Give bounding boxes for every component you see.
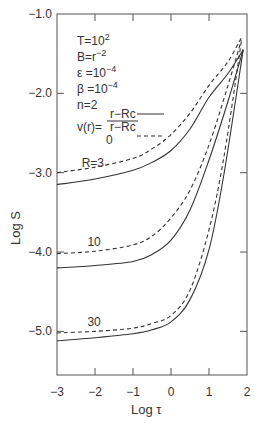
y-tick-label: −3.0 (28, 166, 52, 180)
curve-label: R=3 (82, 156, 105, 170)
x-axis-label: Log τ (131, 402, 162, 417)
legend-prefix: v(r)= (77, 120, 102, 134)
curve-label: 10 (87, 235, 101, 249)
y-tick-label: −2.0 (28, 86, 52, 100)
parameter-annotations: T=102B=r−2ε =10−4β =10−4n=2 (77, 32, 118, 112)
y-axis-label: Log S (8, 211, 23, 245)
legend-denominator: r−Rc (110, 120, 136, 134)
x-tick-label: 1 (206, 385, 213, 399)
x-tick-label: −1 (126, 385, 140, 399)
param-text: ε =10−4 (77, 64, 116, 80)
legend-numerator: r−Rc (110, 107, 136, 121)
x-tick-label: 0 (168, 385, 175, 399)
y-tick-label: −4.0 (28, 245, 52, 259)
y-tick-label: −5.0 (28, 324, 52, 338)
curve-labels: R=31030 (82, 156, 105, 329)
y-tick-label: −1.0 (28, 7, 52, 21)
param-text: β =10−4 (77, 80, 118, 96)
x-tick-label: 2 (244, 385, 251, 399)
legend: v(r)=r−Rcr−Rc0 (77, 107, 164, 147)
x-tick-label: −3 (50, 385, 64, 399)
param-text: n=2 (77, 98, 98, 112)
curve-label: 30 (87, 315, 101, 329)
legend-label-zero: 0 (106, 133, 113, 147)
chart: −3−2−1012−1.0−2.0−3.0−4.0−5.0 Log τ Log … (0, 0, 264, 431)
param-text: B=r−2 (77, 48, 106, 64)
x-tick-label: −2 (88, 385, 102, 399)
param-text: T=102 (77, 32, 110, 48)
